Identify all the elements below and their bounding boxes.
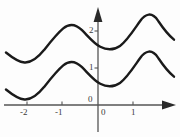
y-tick-label-1: 1 <box>89 63 94 72</box>
graph-figure: -2 -1 0 1 0 1 2 <box>0 0 180 137</box>
lower-curve <box>6 52 174 100</box>
x-tick-label-1: 1 <box>131 108 136 117</box>
upper-curve <box>6 15 174 63</box>
arrow-right-icon <box>162 101 176 110</box>
x-tick-label--1: -1 <box>55 108 63 117</box>
y-tick-label-0: 0 <box>88 95 93 104</box>
y-tick-label-2: 2 <box>89 26 94 35</box>
x-tick-label-0: 0 <box>101 108 106 117</box>
arrow-up-icon <box>94 7 103 22</box>
x-tick-label--2: -2 <box>20 108 28 117</box>
